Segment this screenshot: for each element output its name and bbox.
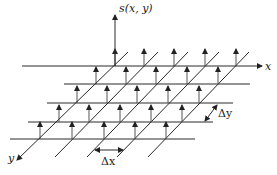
axes	[17, 15, 262, 160]
s-axis-label: s(x, y)	[119, 2, 153, 15]
spacing-markers	[95, 105, 217, 150]
y-axis-label: y	[7, 152, 15, 165]
grid-diagonal-line	[148, 52, 249, 157]
delta-x-label: Δx	[101, 155, 116, 168]
y-axis	[17, 52, 128, 160]
horizontal-grid-lines	[10, 84, 250, 139]
delta-y-arrow	[205, 105, 217, 121]
sample-impulse-arrows	[40, 49, 236, 139]
delta-y-label: Δy	[218, 107, 233, 120]
grid-diagonal-line	[55, 52, 158, 157]
sampling-grid-diagram: s(x, y) x y Δx Δy	[0, 0, 277, 175]
x-axis-label: x	[265, 60, 272, 73]
grid-diagonal-line	[117, 52, 219, 157]
grid-diagonal-line	[87, 52, 188, 157]
diagonal-grid-lines	[55, 52, 249, 157]
